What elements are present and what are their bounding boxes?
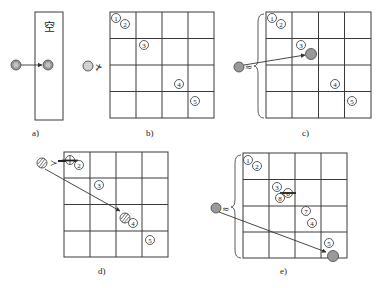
panel-a: 空 a) <box>11 12 63 138</box>
brace-e <box>231 155 241 258</box>
marker-4: 4 <box>129 219 138 228</box>
marker-8: 8 <box>276 194 285 203</box>
marker-2: 2 <box>277 20 286 29</box>
svg-text:2: 2 <box>279 21 283 29</box>
marker-5: 5 <box>146 236 155 245</box>
svg-text:1: 1 <box>270 15 274 23</box>
svg-text:2: 2 <box>77 162 81 170</box>
panel-label-b: b) <box>146 128 154 138</box>
svg-text:3: 3 <box>299 42 303 50</box>
marker-3: 3 <box>140 41 149 50</box>
ball-source-icon <box>11 60 21 70</box>
panel-c: ≈ 1 2 3 4 5 c) <box>234 12 371 138</box>
panel-label-e: e) <box>280 266 287 276</box>
svg-text:3: 3 <box>97 182 101 190</box>
svg-text:3: 3 <box>275 184 279 192</box>
hatched-ball-outside-icon <box>37 158 47 168</box>
panel-label-d: d) <box>98 266 106 276</box>
marker-2: 2 <box>121 20 130 29</box>
svg-text:2: 2 <box>255 163 259 171</box>
svg-text:7: 7 <box>304 208 308 216</box>
svg-text:4: 4 <box>333 81 337 89</box>
succeeds-symbol: ≻ <box>50 158 58 168</box>
panel-d: ≻ 2 3 4 5 d) <box>37 152 168 276</box>
svg-text:5: 5 <box>148 237 152 245</box>
svg-text:1: 1 <box>114 15 118 23</box>
marker-3: 3 <box>297 41 306 50</box>
ball-outside-icon <box>211 203 221 213</box>
dotted-ball-icon <box>83 61 93 71</box>
svg-text:8: 8 <box>278 195 282 203</box>
svg-text:1: 1 <box>246 157 250 165</box>
svg-text:5: 5 <box>350 98 354 106</box>
not-succeeds-symbol: ⊁ <box>95 62 103 72</box>
ball-outside-icon <box>234 62 244 72</box>
svg-text:4: 4 <box>131 220 135 228</box>
svg-text:4: 4 <box>177 81 181 89</box>
figure-canvas: 空 a) ⊁ 1 2 3 4 5 b) <box>0 0 379 288</box>
svg-text:5: 5 <box>193 98 197 106</box>
move-arrow-c <box>244 55 305 65</box>
marker-5: 5 <box>325 239 334 248</box>
marker-2: 2 <box>253 162 262 171</box>
svg-text:2: 2 <box>123 21 127 29</box>
marker-4: 4 <box>331 80 340 89</box>
ball-target-icon <box>43 60 53 70</box>
marker-5: 5 <box>191 97 200 106</box>
marker-1: 1 <box>112 14 121 23</box>
marker-3: 3 <box>273 183 282 192</box>
marker-3: 3 <box>95 181 104 190</box>
panel-b: ⊁ 1 2 3 4 5 b) <box>83 12 214 138</box>
marker-4: 4 <box>308 219 317 228</box>
svg-text:5: 5 <box>327 240 331 248</box>
svg-text:3: 3 <box>142 42 146 50</box>
ball-inside-icon <box>328 251 339 262</box>
empty-label: 空 <box>44 20 55 34</box>
panel-e: ≈ 1 2 3 6 8 7 4 5 e) <box>211 153 347 276</box>
marker-4: 4 <box>175 80 184 89</box>
approx-symbol: ≈ <box>222 204 230 214</box>
marker-1: 1 <box>244 156 253 165</box>
marker-1: 1 <box>268 14 277 23</box>
marker-2: 2 <box>75 161 84 170</box>
marker-5: 5 <box>348 97 357 106</box>
brace-c <box>254 14 264 118</box>
marker-7: 7 <box>302 207 311 216</box>
ball-inside-icon <box>306 49 317 60</box>
svg-text:4: 4 <box>310 220 314 228</box>
panel-label-c: c) <box>302 128 309 138</box>
panel-label-a: a) <box>32 128 39 138</box>
